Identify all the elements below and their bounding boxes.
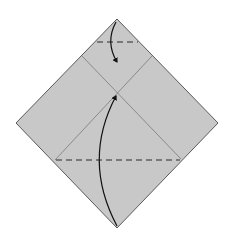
paper-square	[16, 19, 218, 228]
origami-diagram	[0, 0, 232, 242]
diagram-canvas	[0, 0, 232, 242]
